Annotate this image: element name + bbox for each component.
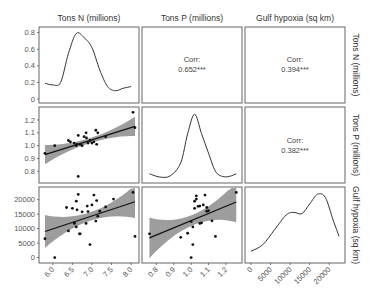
data-point [214,235,217,238]
pairs-plot-svg: Tons N (millions) Tons P (millions) Gulf… [0,0,371,301]
x-tick-label: 1.1 [198,265,212,279]
data-point [53,256,56,259]
x-tick-label: 20000 [312,265,333,286]
data-point [77,193,80,196]
x-tick-label: 5000 [256,265,274,283]
column-title-hypoxia: Gulf hypoxia (sq km) [256,13,334,23]
data-point [94,220,97,223]
x-tick-label: 0.8 [146,265,160,279]
data-point [89,243,92,246]
data-point [132,111,135,114]
x-tick-label: 6.5 [62,265,76,279]
y-tick-label: 0.9 [25,154,35,163]
data-point [191,225,194,228]
data-point [134,126,137,129]
data-point [92,194,95,197]
data-point [73,221,76,224]
data-point [134,235,137,238]
data-point [193,207,196,210]
data-point [75,200,78,203]
data-point [83,135,86,138]
data-point [87,210,90,213]
data-point [65,206,68,209]
x-tick-label: 1.0 [181,265,195,279]
data-point [77,175,80,178]
row-label-tons-n: Tons N (millions) [351,34,361,97]
y-tick-label: 1.0 [25,141,35,150]
data-point [44,237,47,240]
data-point [95,199,98,202]
corr-value: 0.382*** [281,146,309,155]
x-tick-label: 10000 [272,265,293,286]
data-point [195,195,198,198]
data-point [77,134,80,137]
data-point [81,210,84,213]
data-point [69,140,72,143]
data-point [198,222,201,225]
data-point [96,215,99,218]
data-point [191,243,194,246]
data-point [190,220,193,223]
data-point [205,210,208,213]
data-point [186,232,189,235]
pairs-plot: Tons N (millions) Tons P (millions) Gulf… [0,0,371,301]
column-title-tons-n: Tons N (millions) [58,13,121,23]
data-point [85,222,88,225]
data-point [75,225,78,228]
y-tick-label: 1.1 [25,128,35,137]
data-point [112,198,115,201]
data-point [85,131,88,134]
data-point [81,144,84,147]
x-tick-label: 0 [245,265,254,274]
x-tick-label: 15000 [292,265,313,286]
data-point [179,236,182,239]
data-point [73,142,76,145]
data-point [104,206,107,209]
x-tick-label: 1.2 [216,265,230,279]
corr-value: 0.652*** [178,65,206,74]
data-point [205,206,208,209]
y-tick-label: 1.2 [25,116,35,125]
data-point [79,232,82,235]
y-tick-label: 20000 [14,195,35,204]
data-point [91,203,94,206]
data-point [86,205,89,208]
corr-label: Corr: [287,136,304,145]
data-point [104,135,107,138]
data-point [76,208,79,211]
data-point [87,142,90,145]
corr-label: Corr: [184,55,201,64]
data-point [94,129,97,132]
panel-2-3 [245,107,345,183]
row-label-tons-p: Tons P (millions) [351,114,361,176]
y-tick-label: 0.8 [25,167,35,176]
y-tick-label: 0.6 [25,45,35,54]
x-tick-label: 7.5 [101,265,115,279]
corr-value: 0.394*** [281,65,309,74]
data-point [148,232,151,235]
data-point [67,230,70,233]
data-point [71,207,74,210]
data-point [211,219,214,222]
corr-label: Corr: [287,55,304,64]
data-point [89,139,92,142]
y-tick-label: 5000 [18,239,35,248]
data-point [235,191,238,194]
data-point [198,205,201,208]
data-point [202,203,205,206]
y-tick-label: 0.8 [25,28,35,37]
x-tick-label: 0.9 [163,265,177,279]
y-tick-label: 15000 [14,210,35,219]
row-label-hypoxia: Gulf hypoxia (sq km) [351,186,361,264]
data-point [195,198,198,201]
x-tick-label: 6.0 [42,265,56,279]
x-tick-label: 8.0 [121,265,135,279]
panel-1-1 [39,27,139,103]
data-point [92,140,95,143]
y-tick-label: 0.4 [25,61,35,70]
panel-3-3 [245,187,345,263]
data-point [132,191,135,194]
data-point [76,143,79,146]
x-tick-label: 7.0 [82,265,96,279]
y-tick-label: 0 [31,95,35,104]
